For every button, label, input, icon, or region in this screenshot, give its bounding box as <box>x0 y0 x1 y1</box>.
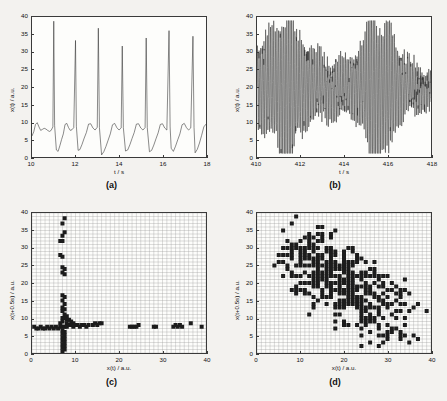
panel-a-xtick-mark <box>119 155 120 158</box>
panel-a-xtick: 16 <box>151 161 175 167</box>
panel-c-xtick-mark <box>31 351 32 354</box>
panel-b-ytick: 15 <box>237 102 253 108</box>
panel-a-ytick-mark <box>31 16 34 17</box>
figure-panel-grid: x(t) / a.u. t / s (a) 051015202530354010… <box>0 0 447 401</box>
panel-a-ytick: 20 <box>12 84 28 90</box>
panel-c-ytick-mark <box>31 319 34 320</box>
panel-d-ytick: 5 <box>237 333 253 339</box>
panel-c: x(t+0.5s) / a.u. x(t) / a.u. (c) 0510152… <box>0 196 223 401</box>
panel-c-ytick-mark <box>31 230 34 231</box>
panel-a-ytick: 15 <box>12 102 28 108</box>
panel-c-ytick-mark <box>31 212 34 213</box>
panel-c-ytick: 40 <box>12 209 28 215</box>
panel-a-ytick: 10 <box>12 119 28 125</box>
panel-d-xtick-mark <box>300 351 301 354</box>
panel-a-ytick-mark <box>31 105 34 106</box>
panel-b-xtick-mark <box>300 155 301 158</box>
panel-a-ytick-mark <box>31 87 34 88</box>
panel-c-caption: (c) <box>0 377 223 387</box>
panel-b-xtick-mark <box>388 155 389 158</box>
panel-b-xtick-mark <box>432 155 433 158</box>
panel-d-ytick: 35 <box>237 227 253 233</box>
panel-c-xtick: 30 <box>151 357 175 363</box>
panel-b-xtick: 418 <box>420 161 444 167</box>
panel-b-plot-area <box>256 16 432 158</box>
panel-d-scatter <box>257 213 431 353</box>
panel-d-ytick-mark <box>256 354 259 355</box>
panel-d-xtick-mark <box>432 351 433 354</box>
panel-c-xtick: 10 <box>63 357 87 363</box>
panel-a-ytick: 25 <box>12 66 28 72</box>
panel-c-xtick-mark <box>119 351 120 354</box>
panel-c-ytick: 30 <box>12 244 28 250</box>
panel-b-xtick: 412 <box>288 161 312 167</box>
panel-a-caption: (a) <box>0 180 223 190</box>
panel-b-ytick-mark <box>256 52 259 53</box>
panel-b-xtick-mark <box>344 155 345 158</box>
panel-b-ytick-mark <box>256 87 259 88</box>
panel-d-ytick: 30 <box>237 244 253 250</box>
panel-c-ytick-mark <box>31 283 34 284</box>
panel-d-xtick-mark <box>256 351 257 354</box>
panel-a-xtick-mark <box>163 155 164 158</box>
panel-c-xtick: 40 <box>195 357 219 363</box>
panel-c-scatter <box>32 213 206 353</box>
panel-a-xlabel: t / s <box>31 168 207 175</box>
panel-c-ytick-mark <box>31 354 34 355</box>
panel-d-ytick-mark <box>256 212 259 213</box>
panel-a-ytick: 35 <box>12 31 28 37</box>
panel-d-ytick: 15 <box>237 298 253 304</box>
panel-d-xtick: 20 <box>332 357 356 363</box>
panel-d-caption: (d) <box>223 377 447 387</box>
panel-b-xtick: 416 <box>376 161 400 167</box>
panel-c-ytick: 10 <box>12 315 28 321</box>
panel-d-ytick-mark <box>256 230 259 231</box>
panel-c-xtick-mark <box>163 351 164 354</box>
panel-a-xtick: 14 <box>107 161 131 167</box>
panel-d-xtick: 0 <box>244 357 268 363</box>
panel-d-ytick: 20 <box>237 280 253 286</box>
panel-a-ytick-mark <box>31 34 34 35</box>
panel-a-xtick-mark <box>75 155 76 158</box>
panel-c-ytick: 5 <box>12 333 28 339</box>
panel-a-xtick: 12 <box>63 161 87 167</box>
panel-b-ytick-mark <box>256 34 259 35</box>
panel-b-ytick-mark <box>256 105 259 106</box>
panel-b-xlabel: t / s <box>256 168 432 175</box>
panel-d-ytick: 10 <box>237 315 253 321</box>
panel-a-xtick-mark <box>207 155 208 158</box>
panel-a-waveform <box>32 17 206 157</box>
panel-d-ytick: 25 <box>237 262 253 268</box>
panel-b-waveform <box>257 17 431 157</box>
panel-b: x(t) / a.u. t / s (b) 051015202530354041… <box>223 0 447 196</box>
panel-c-ytick-mark <box>31 265 34 266</box>
panel-a-plot-area <box>31 16 207 158</box>
panel-b-ytick: 25 <box>237 66 253 72</box>
panel-d-ytick-mark <box>256 283 259 284</box>
panel-b-ytick-mark <box>256 158 259 159</box>
panel-c-xlabel: x(t) / a.u. <box>31 364 207 371</box>
panel-d-xlabel: x(t) / a.u. <box>256 364 432 371</box>
panel-c-ytick-mark <box>31 336 34 337</box>
panel-c-xtick-mark <box>207 351 208 354</box>
panel-a-ytick-mark <box>31 140 34 141</box>
panel-d-ytick-mark <box>256 248 259 249</box>
panel-c-ytick: 20 <box>12 280 28 286</box>
panel-c-ytick: 35 <box>12 227 28 233</box>
panel-a-ytick-mark <box>31 69 34 70</box>
panel-d-xtick-mark <box>388 351 389 354</box>
panel-c-plot-area <box>31 212 207 354</box>
panel-b-ytick-mark <box>256 123 259 124</box>
panel-d-ytick-mark <box>256 301 259 302</box>
panel-c-ytick: 25 <box>12 262 28 268</box>
panel-a: x(t) / a.u. t / s (a) 051015202530354010… <box>0 0 223 196</box>
panel-b-ytick-mark <box>256 69 259 70</box>
panel-a-xtick: 18 <box>195 161 219 167</box>
panel-a-ytick-mark <box>31 123 34 124</box>
panel-d-xtick: 30 <box>376 357 400 363</box>
panel-d-ytick-mark <box>256 319 259 320</box>
panel-c-ytick: 15 <box>12 298 28 304</box>
panel-c-xtick: 0 <box>19 357 43 363</box>
panel-b-ytick: 10 <box>237 119 253 125</box>
panel-b-ytick: 40 <box>237 13 253 19</box>
